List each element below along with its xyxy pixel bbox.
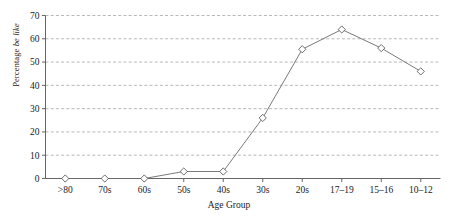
x-tick-label: >80 bbox=[58, 185, 73, 195]
data-point-marker bbox=[180, 168, 187, 175]
y-tick-label: 20 bbox=[30, 127, 40, 137]
y-tick-label: 40 bbox=[30, 81, 40, 91]
x-tick-label: 70s bbox=[98, 185, 112, 195]
plot-area: 010203040506070 >8070s60s50s40s30s20s17–… bbox=[0, 0, 458, 219]
data-point-marker bbox=[62, 175, 69, 182]
data-point-marker bbox=[141, 175, 148, 182]
x-axis-title: Age Group bbox=[0, 200, 458, 210]
x-tick-label: 15–16 bbox=[369, 185, 393, 195]
y-tick-label: 60 bbox=[30, 34, 40, 44]
x-tick-label: 20s bbox=[296, 185, 310, 195]
line-chart-figure: Percentage be like 010203040506070 >8070… bbox=[0, 0, 458, 219]
x-tick-label: 50s bbox=[177, 185, 191, 195]
data-point-markers-group bbox=[62, 26, 425, 182]
x-tick-label: 40s bbox=[217, 185, 231, 195]
y-tick-label: 0 bbox=[35, 174, 40, 184]
gridlines-group bbox=[46, 16, 441, 156]
data-point-marker bbox=[378, 45, 385, 52]
data-point-marker bbox=[101, 175, 108, 182]
data-point-marker bbox=[338, 26, 345, 33]
data-point-marker bbox=[417, 68, 424, 75]
data-series-line bbox=[65, 29, 421, 178]
axis-lines bbox=[46, 16, 441, 179]
x-axis-ticks-group: >8070s60s50s40s30s20s17–1915–1610–12 bbox=[58, 179, 433, 195]
x-tick-label: 10–12 bbox=[409, 185, 433, 195]
x-tick-label: 60s bbox=[138, 185, 152, 195]
data-point-marker bbox=[259, 114, 266, 121]
data-point-marker bbox=[299, 46, 306, 53]
y-axis-ticks-group: 010203040506070 bbox=[30, 11, 46, 184]
y-tick-label: 30 bbox=[30, 104, 40, 114]
y-tick-label: 70 bbox=[30, 11, 40, 21]
x-tick-label: 30s bbox=[256, 185, 270, 195]
data-point-marker bbox=[220, 168, 227, 175]
y-tick-label: 50 bbox=[30, 57, 40, 67]
x-tick-label: 17–19 bbox=[330, 185, 354, 195]
y-tick-label: 10 bbox=[30, 151, 40, 161]
